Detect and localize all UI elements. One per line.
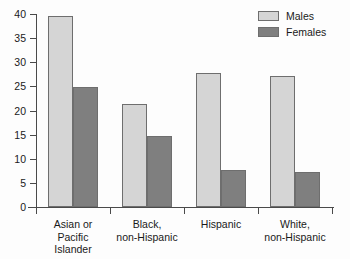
- bar-males-3: [196, 73, 221, 207]
- y-axis-tick-label: 5: [2, 178, 26, 188]
- x-axis-category-label: Asian or Pacific Islander: [36, 218, 110, 256]
- legend-item-females: Females: [258, 26, 326, 38]
- y-axis-tick-label: 10: [2, 154, 26, 164]
- x-axis-tick: [258, 208, 259, 214]
- chart-legend: Males Females: [258, 10, 326, 38]
- bar-males-2: [122, 104, 147, 207]
- y-axis-tick-label: 25: [2, 81, 26, 91]
- bar-males-4: [270, 76, 295, 207]
- x-axis-tick: [110, 208, 111, 214]
- y-axis-tick-label: 0: [2, 202, 26, 212]
- plot-area: [36, 14, 332, 207]
- legend-item-males: Males: [258, 10, 326, 22]
- x-axis-category-label: Hispanic: [184, 218, 258, 231]
- bar-females-2: [147, 136, 172, 207]
- y-axis-tick-label: 35: [2, 33, 26, 43]
- y-axis-tick-label: 15: [2, 130, 26, 140]
- x-axis-category-label: Black, non-Hispanic: [110, 218, 184, 243]
- x-axis-tick: [36, 208, 37, 214]
- x-axis-line: [28, 207, 334, 208]
- y-axis-tick-label: 40: [2, 9, 26, 19]
- legend-label-females: Females: [286, 27, 326, 37]
- bar-females-3: [221, 170, 246, 207]
- x-axis-tick: [184, 208, 185, 214]
- legend-label-males: Males: [286, 11, 314, 21]
- bar-males-1: [48, 16, 73, 207]
- legend-swatch-females: [258, 27, 279, 37]
- x-axis-category-label: White, non-Hispanic: [258, 218, 332, 243]
- y-axis-tick-label: 30: [2, 57, 26, 67]
- bar-females-4: [295, 172, 320, 207]
- bar-females-1: [73, 87, 98, 207]
- x-axis-tick: [332, 208, 333, 214]
- bar-chart: Males Females 0510152025303540 Asian or …: [0, 0, 350, 259]
- y-axis-tick-label: 20: [2, 106, 26, 116]
- legend-swatch-males: [258, 11, 279, 21]
